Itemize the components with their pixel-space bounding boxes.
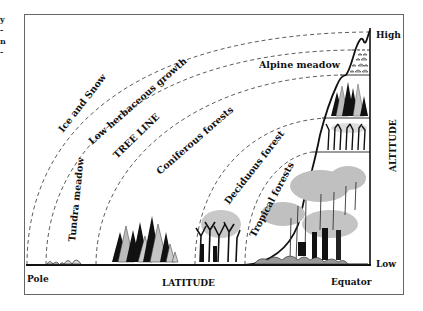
axis-pole: Pole <box>27 274 49 284</box>
axis-latitude: LATITUDE <box>162 278 215 288</box>
label-alpine-meadow: Alpine meadow <box>258 59 341 70</box>
axis-equator: Equator <box>331 277 372 287</box>
axis-high: High <box>376 30 401 40</box>
axis-altitude: ALTITUDE <box>388 119 398 173</box>
axis-low: Low <box>376 259 396 269</box>
vegetation-zones-diagram: Ice and Snow Low herbaceous growth TREE … <box>0 0 423 311</box>
